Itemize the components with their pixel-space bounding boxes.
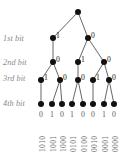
node-layer <box>38 9 117 107</box>
edge-bit-label: 0 <box>56 55 60 64</box>
leaf-bit-label: 0 <box>110 110 118 119</box>
tree-node <box>38 101 44 107</box>
edge-bit-label: 0 <box>91 31 95 40</box>
edge-bit-label: 1 <box>56 31 60 40</box>
leaf-bit-label: 1 <box>68 110 76 119</box>
edge-bit-label: 1 <box>44 73 48 82</box>
edge-bit-label: 0 <box>81 73 85 82</box>
tree-node <box>69 101 75 107</box>
binary-code-tree-figure: 1st bit2nd bit3rd bit4th bit 1001010010 … <box>0 0 128 156</box>
tree-node <box>80 101 86 107</box>
leaf-bit-label: 1 <box>48 110 56 119</box>
leaf-code-label: 1010 <box>38 136 47 152</box>
tree-node <box>111 101 117 107</box>
tree-edge <box>78 12 88 38</box>
edge-layer <box>41 12 114 104</box>
leaf-bit-label: 0 <box>58 110 66 119</box>
leaf-code-label: 0010 <box>90 136 99 152</box>
tree-edge <box>52 80 60 104</box>
leaf-code-label: 0100 <box>80 136 89 152</box>
leaf-bit-label: 0 <box>79 110 87 119</box>
leaf-code-label: 1000 <box>59 136 68 152</box>
leaf-code-label: 0001 <box>101 136 110 152</box>
tree-node <box>59 101 65 107</box>
edge-bit-label: 1 <box>96 73 100 82</box>
edge-bit-label: 1 <box>81 55 85 64</box>
tree-edge <box>104 80 109 104</box>
edge-bit-label: 0 <box>107 55 111 64</box>
level-label: 1st bit <box>3 34 24 43</box>
tree-node <box>49 101 55 107</box>
tree-node <box>75 9 81 15</box>
tree-node <box>90 101 96 107</box>
level-label: 4th bit <box>3 99 25 108</box>
tree-node <box>101 101 107 107</box>
tree-edge <box>78 80 83 104</box>
leaf-bit-label: 0 <box>37 110 45 119</box>
tree-edge <box>88 38 104 62</box>
leaf-bit-label: 0 <box>89 110 97 119</box>
level-label: 3rd bit <box>3 74 25 83</box>
edge-bit-label: 0 <box>112 73 116 82</box>
leaf-code-label: 0101 <box>69 136 78 152</box>
tree-edge <box>109 80 114 104</box>
edge-bit-label: 0 <box>63 73 67 82</box>
leaf-code-label: 1001 <box>49 136 58 152</box>
tree-edge <box>72 80 78 104</box>
level-label: 2nd bit <box>3 58 27 67</box>
leaf-bit-label: 1 <box>100 110 108 119</box>
tree-edge <box>60 80 62 104</box>
leaf-code-label: 0000 <box>111 136 120 152</box>
